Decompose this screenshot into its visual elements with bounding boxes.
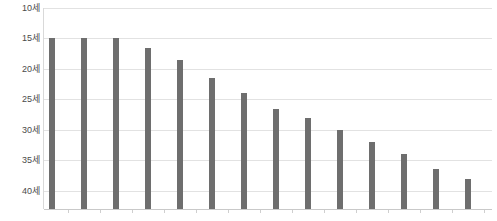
x-axis-tick-mark xyxy=(164,210,165,213)
bar xyxy=(369,142,375,209)
bar-chart: 10세15세20세25세30세35세40세 xyxy=(0,0,497,221)
x-axis-tick-mark xyxy=(228,210,229,213)
bar xyxy=(49,38,55,209)
gridline xyxy=(44,99,492,100)
x-axis-tick-mark xyxy=(100,210,101,213)
x-axis-tick-mark xyxy=(452,210,453,213)
bar xyxy=(337,130,343,209)
y-axis-line xyxy=(43,8,44,209)
gridline xyxy=(44,191,492,192)
y-axis-tick-label: 40세 xyxy=(0,186,40,196)
bar xyxy=(433,169,439,209)
x-axis-tick-mark xyxy=(260,210,261,213)
y-axis-tick-label: 25세 xyxy=(0,94,40,104)
x-axis-line xyxy=(44,209,492,210)
bar xyxy=(241,93,247,209)
y-axis-tick-label: 30세 xyxy=(0,125,40,135)
bar xyxy=(113,38,119,209)
gridline xyxy=(44,160,492,161)
x-axis-tick-mark xyxy=(68,210,69,213)
gridline xyxy=(44,69,492,70)
bar xyxy=(81,38,87,209)
bar xyxy=(209,78,215,209)
bar xyxy=(401,154,407,209)
x-axis-tick-mark xyxy=(196,210,197,213)
x-axis-tick-mark xyxy=(420,210,421,213)
gridline xyxy=(44,38,492,39)
y-axis-tick-label: 35세 xyxy=(0,155,40,165)
x-axis-tick-mark xyxy=(484,210,485,213)
gridline xyxy=(44,130,492,131)
y-axis-tick-labels: 10세15세20세25세30세35세40세 xyxy=(0,0,40,221)
x-axis-tick-mark xyxy=(388,210,389,213)
bar xyxy=(273,109,279,210)
bar xyxy=(145,48,151,209)
gridline xyxy=(44,8,492,9)
bar xyxy=(305,118,311,209)
y-axis-tick-label: 15세 xyxy=(0,33,40,43)
plot-area xyxy=(44,8,492,209)
y-axis-tick-label: 20세 xyxy=(0,64,40,74)
y-axis-tick-label: 10세 xyxy=(0,3,40,13)
x-axis-tick-mark xyxy=(292,210,293,213)
bar xyxy=(177,60,183,209)
bar xyxy=(465,179,471,209)
x-axis-tick-mark xyxy=(132,210,133,213)
x-axis-tick-mark xyxy=(356,210,357,213)
x-axis-tick-mark xyxy=(324,210,325,213)
